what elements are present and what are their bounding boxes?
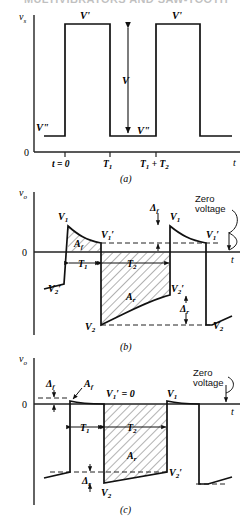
- panel-b-y-axis-label-sub: o: [23, 193, 27, 201]
- panel-c-label-area-forward: Af: [83, 378, 94, 391]
- panel-c-label-v2-sub: 2: [107, 492, 112, 500]
- panel-c-label-delta-f: Δf: [45, 378, 55, 391]
- panel-c-label-delta-r-base: Δ: [81, 475, 88, 486]
- panel-b-label-v1-left: V1: [58, 211, 68, 224]
- panel-b-label-t1-sub: 1: [84, 263, 88, 271]
- panel-b-label-v2prime-right: V2′: [171, 283, 184, 296]
- panel-c-label-t1: T1: [80, 422, 90, 435]
- panel-b-label-delta-f-sub: f: [156, 207, 159, 215]
- panel-c-y-axis-label: vo: [19, 353, 27, 367]
- panel-b-label-t2-sub: 2: [132, 263, 137, 271]
- panel-b-label-v2-right-sub: 2: [219, 325, 224, 333]
- panel-a-label-amplitude: V: [122, 75, 130, 86]
- panel-b-label-v1prime-right-prime: ′: [216, 229, 219, 240]
- panel-a-caption: (a): [120, 173, 132, 185]
- panel-b-zero-voltage-leader: [229, 210, 237, 250]
- panel-c-y-axis-label-sub: o: [23, 359, 27, 367]
- panel-b-label-v1prime-right: V1′: [206, 229, 219, 242]
- panel-b-label-v2prime-left: V2′: [48, 283, 61, 296]
- panel-c-label-v2prime: V2′: [169, 467, 182, 480]
- panel-c-label-delta-f-base: Δ: [45, 378, 52, 389]
- panel-b-label-v2-left: V2: [85, 321, 96, 334]
- panel-a-ticklabel-t0: t = 0: [52, 159, 70, 169]
- panel-b-label-v1prime-left-prime: ′: [111, 229, 114, 240]
- waveform-figure-svg: vs 0 t V' V' V" V" V t = 0 T1 T1 + T2: [0, 0, 252, 529]
- panel-c-label-v1prime-zero-rest: ′ = 0: [116, 388, 135, 399]
- panel-c-label-area-reverse-sub: r: [134, 455, 137, 463]
- panel-b-origin-label: 0: [22, 247, 27, 258]
- panel-c-x-axis-label: t: [231, 406, 234, 417]
- panel-b-label-delta-r-sub: r: [186, 308, 189, 316]
- panel-b-caption: (b): [120, 341, 132, 353]
- panel-c-label-v1prime-zero: V1′ = 0: [106, 388, 135, 401]
- panel-a-ticklabel-t1: T1: [103, 159, 112, 171]
- panel-c-label-v1-right: V1: [167, 388, 177, 401]
- zero-voltage-wrap-c: Zero voltage: [193, 368, 245, 388]
- panel-b-label-v2-right: V2: [213, 320, 224, 333]
- panel-a-y-axis-label: vs: [19, 11, 26, 25]
- panel-b-label-v1-right: V1: [170, 211, 180, 224]
- panel-a-ticklabel-t1-sub: 1: [109, 163, 113, 171]
- clipped-header-text: MULTIVIBRATORS AND SAW-TOOTH: [0, 0, 252, 4]
- panel-c-label-v2prime-prime: ′: [179, 467, 182, 478]
- zero-voltage-text-c: Zero voltage: [193, 367, 224, 388]
- clipped-running-header: MULTIVIBRATORS AND SAW-TOOTH: [0, 0, 252, 9]
- panel-c-label-delta-r-sub: r: [88, 480, 91, 488]
- panel-a-waveform: [44, 24, 232, 136]
- panel-a-y-axis-label-sub: s: [23, 17, 26, 25]
- panel-c-leader-area-forward: [73, 388, 82, 399]
- panel-b-label-delta-r-base: Δ: [179, 303, 186, 314]
- panel-b-label-delta-r: Δr: [179, 303, 189, 316]
- panel-b-label-delta-f: Δf: [149, 202, 159, 215]
- panel-a-ticklabel-sum-plus: +: [149, 159, 159, 169]
- panel-b-label-area-reverse-sub: r: [133, 296, 136, 304]
- panel-c-label-area-forward-sub: f: [91, 383, 94, 391]
- panel-a-label-vdprime-mid: V": [137, 125, 150, 136]
- panel-b-label-delta-f-base: Δ: [149, 202, 156, 213]
- panel-b-y-axis-label: vo: [19, 187, 27, 201]
- panel-b-x-axis-label: t: [231, 254, 234, 265]
- panel-b-label-t1: T1: [78, 258, 88, 271]
- panel-b-label-v1-left-sub: 1: [65, 216, 69, 224]
- panel-a-x-axis-label: t: [233, 157, 236, 168]
- panel-c-caption: (c): [120, 504, 132, 516]
- panel-c-label-t2-sub: 2: [132, 427, 137, 435]
- panel-a-origin-label: 0: [24, 147, 29, 158]
- panel-b-label-v2prime-right-prime: ′: [181, 283, 184, 294]
- panel-a: vs 0 t V' V' V" V" V t = 0 T1 T1 + T2: [19, 10, 240, 185]
- panel-c-origin-label: 0: [22, 399, 27, 410]
- panel-c-label-delta-r: Δr: [81, 475, 91, 488]
- panel-a-ticklabel-t1-plus-t2: T1 + T2: [140, 159, 169, 171]
- panel-a-label-vprime-right: V': [172, 10, 182, 21]
- panel-c-area-reverse-shading: [104, 404, 167, 483]
- panel-b-label-v2prime-left-prime: ′: [58, 283, 61, 294]
- zero-voltage-text-b: Zero voltage: [195, 193, 226, 214]
- panel-a-label-vdprime-left: V": [36, 122, 49, 133]
- panel-b-label-v2-left-sub: 2: [91, 326, 96, 334]
- panel-c-label-v1-right-sub: 1: [174, 393, 178, 401]
- panel-a-label-vprime-left: V': [80, 10, 90, 21]
- panel-b-label-v1-right-sub: 1: [177, 216, 181, 224]
- figure-root: MULTIVIBRATORS AND SAW-TOOTH: [0, 0, 252, 529]
- panel-c-label-t1-sub: 1: [86, 427, 90, 435]
- panel-c-label-delta-f-sub: f: [52, 383, 55, 391]
- panel-a-ticklabel-sum-sub2: 2: [164, 163, 169, 171]
- panel-b-label-v1prime-left: V1′: [101, 229, 114, 242]
- panel-c-label-v2: V2: [101, 487, 112, 500]
- zero-voltage-wrap-b: Zero voltage: [195, 194, 247, 214]
